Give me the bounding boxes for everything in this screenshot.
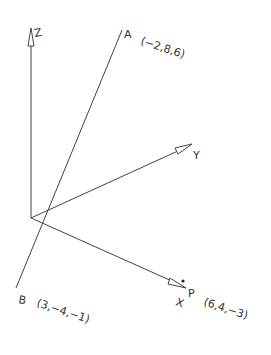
point-b-coords: (3,−4,−1): [35, 296, 91, 325]
3d-coordinate-diagram: Z Y X A (−2,8,6) B (3,−4,−1) P (6,4,−3): [0, 0, 271, 355]
point-p-label: P: [188, 287, 195, 300]
point-a-coords: (−2,8,6): [139, 34, 187, 61]
point-b-label: B: [17, 293, 27, 307]
y-axis: [31, 150, 180, 218]
z-axis-label: Z: [33, 26, 43, 40]
line-ab: [16, 30, 122, 288]
x-axis-label: X: [174, 296, 186, 311]
point-a-label: A: [124, 28, 132, 41]
x-axis: [31, 218, 174, 282]
point-p-dot: [181, 279, 184, 282]
y-axis-arrowhead-icon: [175, 144, 192, 154]
y-axis-label: Y: [192, 149, 200, 162]
point-p-coords: (6,4,−3): [202, 295, 250, 322]
